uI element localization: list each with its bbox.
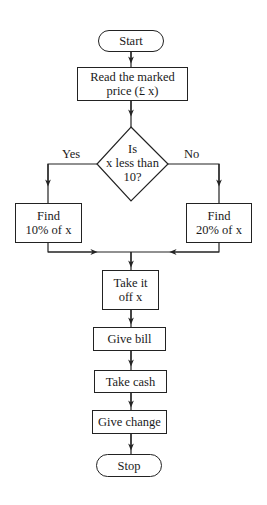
- read-price-label: Read the marked price (£ x): [90, 70, 175, 98]
- take-off-label: Take it off x: [113, 276, 147, 304]
- find-20-percent-box: Find 20% of x: [186, 203, 252, 243]
- connector-merge-left: [48, 242, 131, 252]
- start-terminator: Start: [98, 30, 164, 52]
- give-change-label: Give change: [98, 415, 161, 429]
- yes-label: Yes: [62, 147, 80, 162]
- connector-yes: [48, 164, 97, 203]
- connector-no: [168, 164, 219, 203]
- take-cash-box: Take cash: [94, 370, 167, 393]
- find-10-percent-box: Find 10% of x: [15, 203, 82, 243]
- give-bill-box: Give bill: [93, 327, 166, 351]
- find-20-percent-label: Find 20% of x: [196, 209, 242, 237]
- find-10-percent-label: Find 10% of x: [26, 209, 72, 237]
- no-label: No: [184, 147, 199, 162]
- stop-terminator: Stop: [96, 454, 162, 477]
- take-cash-label: Take cash: [106, 375, 155, 389]
- take-off-box: Take it off x: [102, 270, 159, 310]
- decision-label: Is x less than 10?: [97, 142, 168, 184]
- connector-merge-right: [131, 243, 219, 252]
- give-change-box: Give change: [92, 410, 167, 434]
- stop-label: Stop: [118, 459, 141, 473]
- read-price-box: Read the marked price (£ x): [77, 67, 188, 101]
- give-bill-label: Give bill: [107, 332, 151, 346]
- start-label: Start: [119, 34, 143, 48]
